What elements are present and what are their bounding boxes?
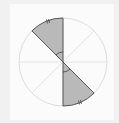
shaded-sector-lower-right bbox=[63, 62, 94, 106]
circle-diagram bbox=[0, 0, 119, 123]
shaded-sector-upper-left bbox=[32, 18, 63, 62]
